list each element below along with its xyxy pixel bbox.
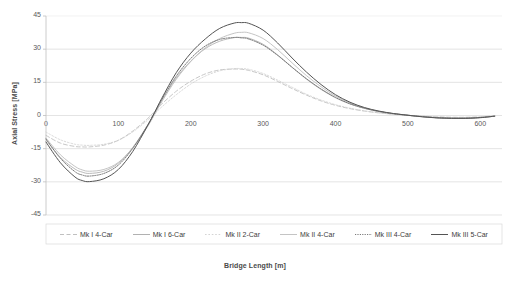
legend-item[interactable]: Mk III 4-Car <box>355 231 412 238</box>
axial-stress-line-chart: Axial Stress [MPa] Bridge Length [m] 453… <box>0 0 510 281</box>
legend-item[interactable]: Mk I 4-Car <box>60 231 113 238</box>
legend-line-swatch <box>60 231 77 238</box>
series-line <box>46 32 495 171</box>
series-line <box>46 37 495 176</box>
series-line <box>46 68 495 145</box>
legend-line-swatch <box>355 231 372 238</box>
legend-label: Mk I 6-Car <box>153 231 186 238</box>
legend-label: Mk III 5-Car <box>451 231 488 238</box>
legend-line-swatch <box>280 231 297 238</box>
legend-line-swatch <box>133 231 150 238</box>
legend-item[interactable]: Mk III 5-Car <box>431 231 488 238</box>
series-line <box>46 22 495 181</box>
legend-line-swatch <box>431 231 448 238</box>
legend-item[interactable]: Mk II 4-Car <box>280 231 335 238</box>
legend-label: Mk II 4-Car <box>300 231 335 238</box>
legend-label: Mk II 2-Car <box>225 231 260 238</box>
series-line <box>46 37 495 173</box>
chart-legend: Mk I 4-CarMk I 6-CarMk II 2-CarMk II 4-C… <box>46 224 502 244</box>
data-series-group <box>46 22 495 181</box>
legend-line-swatch <box>205 231 222 238</box>
legend-label: Mk III 4-Car <box>375 231 412 238</box>
legend-item[interactable]: Mk I 6-Car <box>133 231 186 238</box>
series-line <box>46 69 495 147</box>
axis-lines <box>43 16 46 215</box>
gridlines <box>46 16 502 215</box>
legend-label: Mk I 4-Car <box>80 231 113 238</box>
legend-item[interactable]: Mk II 2-Car <box>205 231 260 238</box>
